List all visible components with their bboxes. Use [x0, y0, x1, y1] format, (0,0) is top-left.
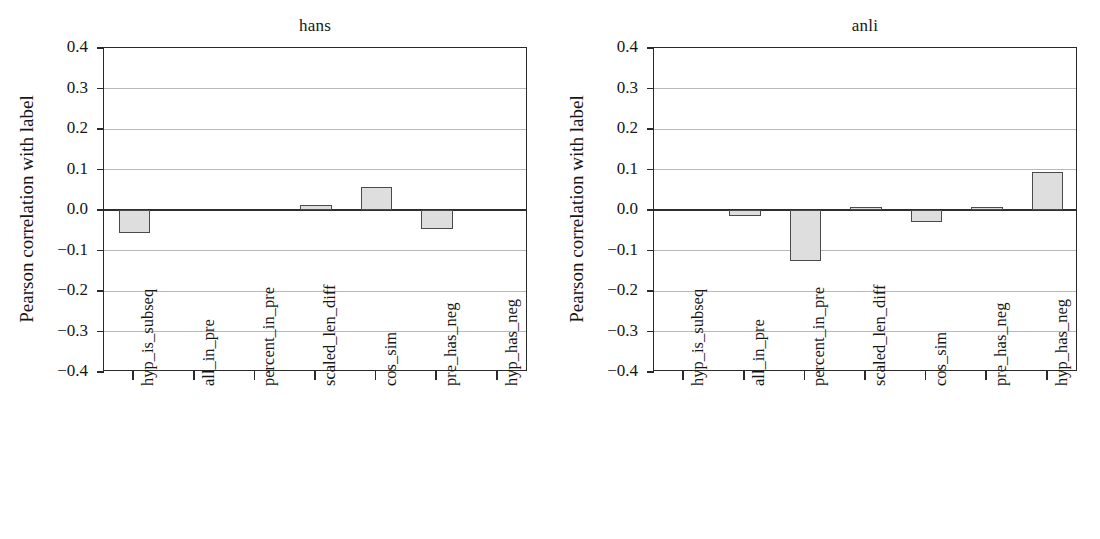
y-tick-mark	[647, 250, 654, 252]
gridline	[654, 250, 1076, 251]
x-tick-mark	[496, 371, 498, 380]
x-tick-label: hyp_is_subseq	[139, 289, 157, 386]
y-tick-label: −0.2	[550, 281, 638, 298]
panel-title: anli	[653, 16, 1077, 36]
gridline	[654, 169, 1076, 170]
chart-panel-hans: hans Pearson correlation with label 0.40…	[0, 0, 550, 539]
x-tick-mark	[314, 371, 316, 380]
bar	[729, 210, 760, 216]
y-tick-mark	[647, 331, 654, 333]
gridline	[654, 88, 1076, 89]
x-tick-label: hyp_is_subseq	[689, 289, 707, 386]
bar	[361, 187, 392, 210]
x-tick-label: cos_sim	[932, 332, 950, 386]
bar	[300, 205, 331, 210]
y-tick-label: 0.4	[550, 38, 638, 55]
y-tick-mark	[647, 88, 654, 90]
y-tick-label: 0.1	[0, 160, 88, 177]
x-tick-mark	[254, 371, 256, 380]
x-tick-label: pre_has_neg	[992, 303, 1010, 386]
y-tick-label: −0.1	[0, 241, 88, 258]
y-tick-label: 0.2	[0, 119, 88, 136]
chart-panel-anli: anli Pearson correlation with label 0.40…	[550, 0, 1100, 539]
gridline	[104, 291, 526, 292]
bar	[1032, 172, 1063, 210]
y-tick-mark	[647, 47, 654, 49]
y-tick-mark	[97, 88, 104, 90]
gridline	[104, 169, 526, 170]
y-tick-label: 0.3	[550, 79, 638, 96]
y-tick-mark	[97, 371, 104, 373]
gridline	[104, 331, 526, 332]
bar	[971, 207, 1002, 210]
gridline	[104, 129, 526, 130]
bar	[790, 210, 821, 261]
bar	[119, 210, 150, 233]
gridline	[654, 129, 1076, 130]
y-tick-label: −0.3	[0, 322, 88, 339]
x-tick-mark	[375, 371, 377, 380]
x-tick-mark	[743, 371, 745, 380]
y-tick-mark	[647, 169, 654, 171]
x-tick-label: percent_in_pre	[260, 287, 278, 386]
y-tick-mark	[97, 209, 104, 211]
x-tick-label: hyp_has_neg	[503, 299, 521, 386]
y-tick-mark	[647, 290, 654, 292]
figure: hans Pearson correlation with label 0.40…	[0, 0, 1100, 539]
bar	[850, 207, 881, 210]
y-tick-mark	[647, 128, 654, 130]
x-tick-label: percent_in_pre	[810, 287, 828, 386]
x-tick-mark	[925, 371, 927, 380]
bar	[421, 210, 452, 229]
y-tick-label: 0.0	[550, 200, 638, 217]
bar	[911, 210, 942, 222]
plot-area	[653, 47, 1077, 371]
y-tick-mark	[97, 128, 104, 130]
y-tick-mark	[647, 209, 654, 211]
y-tick-label: −0.2	[0, 281, 88, 298]
plot-area	[103, 47, 527, 371]
x-tick-mark	[864, 371, 866, 380]
x-tick-mark	[1046, 371, 1048, 380]
x-tick-label: hyp_has_neg	[1053, 299, 1071, 386]
y-tick-mark	[97, 290, 104, 292]
y-tick-label: −0.4	[550, 362, 638, 379]
x-tick-mark	[435, 371, 437, 380]
x-tick-label: all_in_pre	[200, 319, 218, 386]
x-tick-label: scaled_len_diff	[321, 285, 339, 386]
y-tick-mark	[97, 250, 104, 252]
x-tick-label: scaled_len_diff	[871, 285, 889, 386]
x-tick-mark	[985, 371, 987, 380]
panel-title: hans	[103, 16, 527, 36]
x-tick-mark	[193, 371, 195, 380]
y-tick-label: 0.3	[0, 79, 88, 96]
x-tick-label: pre_has_neg	[442, 303, 460, 386]
y-tick-mark	[97, 47, 104, 49]
gridline	[104, 250, 526, 251]
y-tick-label: 0.0	[0, 200, 88, 217]
y-tick-label: 0.4	[0, 38, 88, 55]
x-tick-mark	[682, 371, 684, 380]
x-tick-label: all_in_pre	[750, 319, 768, 386]
y-tick-mark	[97, 169, 104, 171]
gridline	[654, 331, 1076, 332]
y-tick-label: −0.4	[0, 362, 88, 379]
gridline	[654, 291, 1076, 292]
y-tick-label: 0.1	[550, 160, 638, 177]
x-tick-mark	[132, 371, 134, 380]
y-tick-label: −0.1	[550, 241, 638, 258]
gridline	[104, 88, 526, 89]
x-tick-label: cos_sim	[382, 332, 400, 386]
x-tick-mark	[804, 371, 806, 380]
y-tick-mark	[97, 331, 104, 333]
y-tick-mark	[647, 371, 654, 373]
y-tick-label: −0.3	[550, 322, 638, 339]
y-tick-label: 0.2	[550, 119, 638, 136]
